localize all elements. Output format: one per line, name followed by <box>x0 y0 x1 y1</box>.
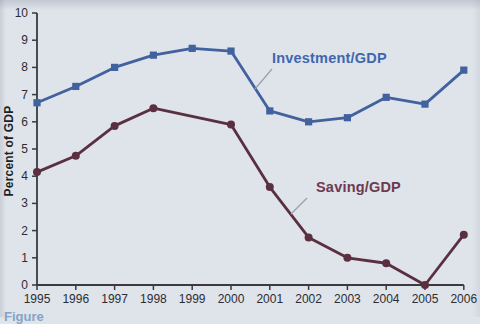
axis-lines <box>37 13 464 285</box>
data-marker-square <box>189 45 196 52</box>
data-marker-square <box>33 99 40 106</box>
y-axis-title: Percent of GDP <box>2 105 16 197</box>
y-tick-label: 1 <box>21 251 28 265</box>
series-line-saving <box>37 108 464 285</box>
data-marker-circle <box>460 231 468 239</box>
data-marker-circle <box>72 152 80 160</box>
saving-series-label: Saving/GDP <box>316 179 401 195</box>
data-marker-circle <box>227 121 235 129</box>
y-tick-label: 8 <box>21 60 28 74</box>
x-tick-label: 2004 <box>373 292 400 306</box>
data-marker-square <box>460 67 467 74</box>
y-tick-label: 7 <box>21 88 28 102</box>
x-tick-label: 1996 <box>62 292 89 306</box>
x-tick-label: 2003 <box>334 292 361 306</box>
figure-caption-cutoff: Figure <box>4 309 44 324</box>
x-tick-label: 2001 <box>256 292 283 306</box>
data-marker-square <box>305 118 312 125</box>
x-tick-label: 2000 <box>218 292 245 306</box>
x-tick-label: 1995 <box>24 292 51 306</box>
data-marker-circle <box>33 168 41 176</box>
data-marker-square <box>383 94 390 101</box>
x-tick-label: 2005 <box>412 292 439 306</box>
data-marker-square <box>266 107 273 114</box>
x-tick-label: 2006 <box>450 292 477 306</box>
y-tick-label: 3 <box>21 196 28 210</box>
data-marker-square <box>111 64 118 71</box>
data-marker-square <box>150 52 157 59</box>
investment-label-leader-line <box>255 69 272 89</box>
data-marker-circle <box>266 183 274 191</box>
data-marker-circle <box>149 104 157 112</box>
y-tick-label: 5 <box>21 142 28 156</box>
data-marker-circle <box>421 281 429 289</box>
y-tick-label: 0 <box>21 278 28 292</box>
data-marker-circle <box>111 122 119 130</box>
y-tick-label: 9 <box>21 33 28 47</box>
x-tick-label: 2002 <box>295 292 322 306</box>
data-marker-square <box>227 47 234 54</box>
series-line-investment <box>37 48 464 121</box>
saving-label-leader-line <box>291 198 307 214</box>
data-marker-circle <box>305 233 313 241</box>
investment-series-label: Investment/GDP <box>272 50 387 66</box>
data-marker-square <box>72 83 79 90</box>
x-tick-label: 1998 <box>140 292 167 306</box>
y-tick-label: 4 <box>21 169 28 183</box>
y-tick-label: 2 <box>21 224 28 238</box>
x-tick-label: 1997 <box>101 292 128 306</box>
data-marker-circle <box>343 254 351 262</box>
data-marker-square <box>421 101 428 108</box>
data-marker-circle <box>382 259 390 267</box>
y-tick-label: 10 <box>15 6 29 20</box>
y-tick-label: 6 <box>21 115 28 129</box>
x-tick-label: 1999 <box>179 292 206 306</box>
data-marker-square <box>344 114 351 121</box>
